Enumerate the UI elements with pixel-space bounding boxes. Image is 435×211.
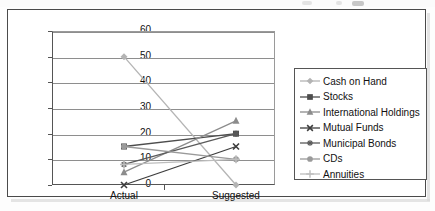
scan-artifact-strip [0, 0, 435, 7]
legend-label: Annuities [323, 169, 364, 180]
marker-x [121, 182, 127, 188]
chart-screenshot: 6050403020100 ActualSuggested Cash on Ha… [0, 0, 435, 211]
legend-marker-plus-icon [299, 168, 321, 180]
legend-marker-diamond-icon [299, 75, 321, 87]
legend-marker-square-icon [299, 91, 321, 103]
x-axis-category-label: Actual [84, 190, 164, 201]
marker-plus [306, 170, 314, 178]
legend-item[interactable]: CDs [299, 152, 422, 166]
series-cash-on-hand [121, 53, 240, 188]
marker-plus [232, 155, 240, 163]
marker-diamond [307, 78, 314, 85]
legend-item[interactable]: International Holdings [299, 105, 422, 119]
legend-marker-asterisk-icon [299, 137, 321, 149]
scan-smudge [302, 1, 312, 5]
series-line [124, 134, 236, 147]
legend-item[interactable]: Mutual Funds [299, 121, 422, 135]
data-series-layer [52, 31, 275, 185]
marker-circle [307, 156, 313, 162]
frame-shadow [427, 13, 430, 201]
marker-x [233, 144, 239, 150]
legend-item[interactable]: Cash on Hand [299, 74, 422, 88]
legend-item[interactable]: Annuities [299, 167, 422, 181]
y-axis-tick-mark [48, 185, 52, 186]
marker-asterisk [307, 140, 313, 146]
chart-legend: Cash on HandStocksInternational Holdings… [294, 68, 427, 180]
marker-asterisk [233, 131, 239, 137]
legend-label: Stocks [323, 91, 353, 102]
legend-marker-triangle-icon [299, 106, 321, 118]
marker-square [307, 94, 313, 100]
legend-label: CDs [323, 153, 342, 164]
x-axis-category-label: Suggested [196, 190, 276, 201]
scan-smudge [352, 1, 364, 6]
legend-label: Municipal Bonds [323, 138, 396, 149]
legend-marker-circle-icon [299, 153, 321, 165]
chart-frame: 6050403020100 ActualSuggested Cash on Ha… [7, 9, 426, 197]
legend-label: Mutual Funds [323, 122, 384, 133]
marker-plus [120, 160, 128, 168]
marker-circle [121, 144, 127, 150]
legend-marker-x-icon [299, 122, 321, 134]
legend-item[interactable]: Municipal Bonds [299, 136, 422, 150]
marker-triangle [233, 117, 240, 124]
legend-label: International Holdings [323, 107, 420, 118]
legend-item[interactable]: Stocks [299, 90, 422, 104]
scan-smudge [336, 1, 342, 5]
x-axis-tick-mark [164, 185, 165, 190]
series-line [124, 121, 236, 172]
legend-label: Cash on Hand [323, 76, 387, 87]
